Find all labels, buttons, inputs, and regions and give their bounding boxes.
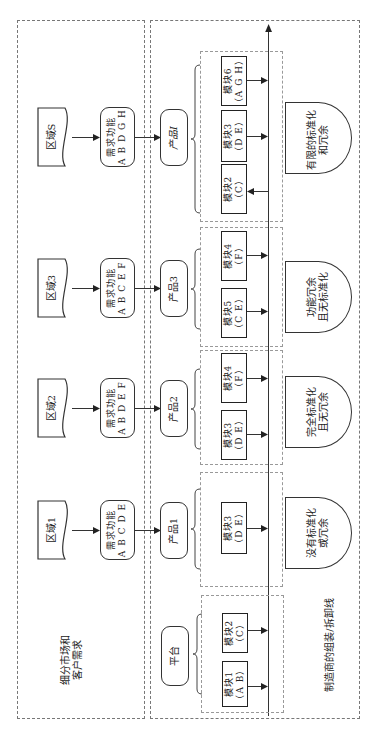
module-5-text: 模块5（C E） [223,288,245,338]
demand-function-3-text: 需求功能A B C E F [106,258,128,318]
region-s-label: 区域S [42,112,62,162]
arrow-left-icon [247,188,254,195]
module-3-text: 模块3（D E） [223,111,245,161]
arrow-right-icon [261,77,268,84]
arrow-right-icon [261,375,268,382]
module-2-text: 模块2（C） [224,608,246,658]
module-1-text: 模块1（A B） [224,659,246,709]
outcome-product-3-text: 功能冗余且无标准化 [306,262,330,332]
arrow-right-icon [261,683,268,690]
arrow-right-icon [261,308,268,315]
product-2-label: 产品2 [164,384,184,434]
arrow-up-icon [264,24,274,34]
module-3-text: 模块3（D E） [223,503,245,553]
outcome-product-1-text: 没有标准化或冗余 [306,498,330,568]
demand-function-1-text: 需求功能A B C D E [106,500,128,560]
region-2-label: 区域2 [42,383,62,433]
product-1-label: 产品1 [164,506,184,556]
module-4-text: 模块4（F） [223,353,245,403]
module-6-text: 模块6（A G H） [223,56,245,106]
arrow-right-icon [93,134,100,141]
market-demand-label: 细分市场和客户需求 [52,620,92,700]
arrow-right-icon [93,527,100,534]
arrow-right-icon [93,405,100,412]
arrow-right-icon [261,627,268,634]
arrow-right-icon [261,431,268,438]
demand-function-s-text: 需求功能A B D G H [106,107,128,167]
region-1-label: 区域1 [42,505,62,555]
arrow-right-icon [261,525,268,532]
arrow-right-icon [93,285,100,292]
arrow-right-icon [261,252,268,259]
assembly-line-label: 制造商的组装/拆卸线 [320,585,340,705]
module-3-text: 模块3（D E） [223,410,245,460]
product-3-label: 产品3 [164,264,184,314]
demand-function-2-text: 需求功能A B D E F [106,378,128,438]
region-3-label: 区域3 [42,263,62,313]
module-2-text: 模块2（C） [223,164,245,214]
module-4-text: 模块4（F） [223,231,245,281]
outcome-product-2-text: 完全标准化且无冗余 [306,377,330,447]
arrow-right-icon [261,133,268,140]
product-i-label: 产品I [164,113,184,163]
platform-label: 平台 [165,631,185,681]
outcome-product-i-text: 有限的标准化和冗余 [306,105,330,175]
